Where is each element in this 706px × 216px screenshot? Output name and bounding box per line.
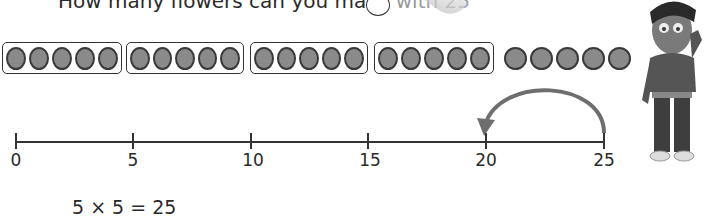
tick-label: 20 xyxy=(475,150,497,170)
counter xyxy=(153,47,173,70)
counter xyxy=(344,47,364,70)
answer-circle[interactable] xyxy=(366,0,390,16)
counter xyxy=(98,47,118,70)
counter-group-3 xyxy=(250,42,368,74)
counter xyxy=(470,47,490,70)
tick-5 xyxy=(132,133,134,149)
counter xyxy=(130,47,150,70)
equation: 5 × 5 = 25 xyxy=(72,196,176,216)
tick-15 xyxy=(367,133,369,149)
counter-group-loose xyxy=(504,42,631,74)
counter xyxy=(254,47,274,70)
question-text: How many flowers can you make with 25 xyxy=(58,0,470,13)
counter-group-1 xyxy=(2,42,122,74)
tick-label: 5 xyxy=(128,150,139,170)
tick-25 xyxy=(603,133,605,149)
counter xyxy=(75,47,95,70)
counter xyxy=(424,47,444,70)
counter xyxy=(530,47,553,70)
counter xyxy=(29,47,49,70)
counter xyxy=(504,47,527,70)
tick-10 xyxy=(250,133,252,149)
counter xyxy=(175,47,195,70)
counter xyxy=(378,47,398,70)
character-boy-illustration xyxy=(632,0,706,165)
counter xyxy=(6,47,26,70)
counter xyxy=(447,47,467,70)
counter xyxy=(608,47,631,70)
tick-label: 10 xyxy=(242,150,264,170)
counter-group-2 xyxy=(126,42,244,74)
counter xyxy=(401,47,421,70)
counter xyxy=(277,47,297,70)
tick-label: 25 xyxy=(593,150,615,170)
tick-label: 15 xyxy=(359,150,381,170)
counter xyxy=(220,47,240,70)
counter xyxy=(198,47,218,70)
question-main: How many flowers can you make xyxy=(58,0,396,13)
counter xyxy=(299,47,319,70)
counter xyxy=(52,47,72,70)
counter xyxy=(582,47,605,70)
number-line xyxy=(15,141,605,143)
counter-group-4 xyxy=(374,42,494,74)
counter xyxy=(556,47,579,70)
tick-label: 0 xyxy=(11,150,22,170)
counter xyxy=(322,47,342,70)
jump-arrow-icon xyxy=(470,80,620,140)
tick-20 xyxy=(485,133,487,149)
tick-0 xyxy=(15,133,17,149)
